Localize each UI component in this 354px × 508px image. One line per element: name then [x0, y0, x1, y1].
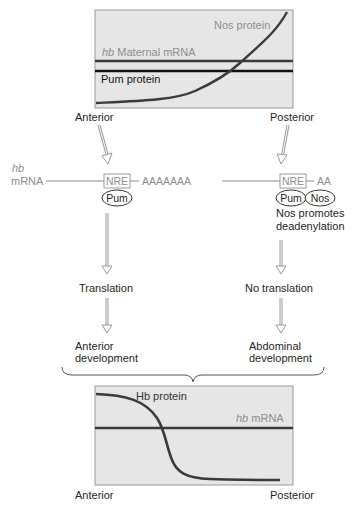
anterior-outcome-line2: development: [75, 352, 138, 365]
posterior-polya-tail: AA: [317, 175, 331, 188]
hb-gene-italic: hb: [102, 46, 114, 58]
hb-mrna-text: mRNA: [248, 412, 283, 424]
hb-maternal-mrna-label: hb Maternal mRNA: [102, 46, 196, 59]
diagram-graphics: [0, 0, 354, 508]
arrow-anterior-down-2: [102, 213, 112, 274]
posterior-note-line2: deadenylation: [276, 220, 345, 233]
hb-mrna-label: hb mRNA: [236, 412, 284, 425]
top-axis-anterior-label: Anterior: [75, 111, 114, 124]
hb-gene-italic-bottom: hb: [236, 412, 248, 424]
posterior-outcome-line2: development: [249, 352, 312, 365]
posterior-nos-label: Nos: [305, 192, 335, 205]
anterior-hb-italic-label: hb: [12, 162, 24, 175]
pum-protein-label: Pum protein: [101, 73, 160, 86]
bottom-chart: [95, 386, 293, 485]
posterior-nre-label: NRE: [280, 175, 306, 188]
anterior-polya-tail: AAAAAAA: [142, 175, 191, 188]
anterior-pum-label: Pum: [102, 192, 132, 205]
anterior-step-translation: Translation: [79, 282, 133, 295]
hb-protein-label: Hb protein: [136, 390, 187, 403]
anterior-nre-label: NRE: [104, 175, 130, 188]
arrow-posterior-down-3: [276, 298, 286, 333]
bottom-axis-posterior-label: Posterior: [270, 489, 314, 502]
bottom-chart-frame: [95, 386, 293, 485]
posterior-step-no-translation: No translation: [245, 282, 313, 295]
anterior-mrna-label: mRNA: [11, 175, 43, 188]
arrow-posterior-down-2: [276, 240, 286, 274]
posterior-note-line1: Nos promotes: [276, 207, 344, 220]
arrow-anterior-down-3: [102, 298, 112, 333]
posterior-pum-label: Pum: [276, 192, 306, 205]
maternal-mrna-text: Maternal mRNA: [114, 46, 195, 58]
arrow-anterior-down-1: [99, 125, 112, 164]
nos-protein-label: Nos protein: [214, 19, 270, 32]
top-axis-posterior-label: Posterior: [270, 111, 314, 124]
bottom-axis-anterior-label: Anterior: [75, 489, 114, 502]
combining-brace: [62, 367, 324, 382]
arrow-posterior-down-1: [277, 125, 288, 164]
